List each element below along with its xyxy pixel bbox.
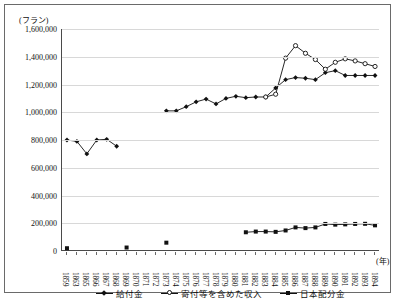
data-point (224, 96, 229, 101)
x-axis-tick-labels: 1859186318651866186718681869187018711872… (61, 252, 379, 286)
data-point (313, 57, 317, 61)
series-line (266, 46, 375, 97)
data-point (264, 230, 268, 234)
gridline (62, 140, 379, 141)
x-tick (126, 252, 127, 255)
x-tick-label: 1893 (360, 272, 369, 286)
legend-marker-icon (280, 293, 297, 294)
x-tick-label: 1877 (201, 272, 210, 286)
x-tick-label: 1859 (61, 272, 70, 286)
data-point (253, 95, 258, 100)
x-tick (285, 252, 286, 255)
series-line (67, 139, 117, 154)
y-tick-label: 0 (5, 247, 57, 256)
gridline (62, 112, 379, 113)
x-tick-label: 1871 (141, 272, 150, 286)
x-tick-label: 1866 (91, 272, 100, 286)
data-point (214, 102, 219, 107)
x-tick (354, 252, 355, 255)
data-point (303, 226, 307, 230)
data-point (363, 73, 368, 78)
x-tick (364, 252, 365, 255)
data-point (363, 62, 367, 66)
x-tick (106, 252, 107, 255)
x-tick-label: 1884 (270, 272, 279, 286)
y-tick-label: 1,200,000 (5, 80, 57, 89)
x-tick-label: 1870 (131, 272, 140, 286)
data-point (293, 75, 298, 80)
x-tick-label: 1889 (320, 272, 329, 286)
y-tick-label: 200,000 (5, 219, 57, 228)
x-tick (175, 252, 176, 255)
x-tick (225, 252, 226, 255)
x-tick (215, 252, 216, 255)
x-tick-label: 1887 (300, 272, 309, 286)
data-point (274, 230, 278, 234)
data-point (353, 73, 358, 78)
x-tick (245, 252, 246, 255)
data-point (274, 92, 278, 96)
x-tick-label: 1865 (81, 272, 90, 286)
x-tick (324, 252, 325, 255)
data-point (264, 95, 268, 99)
x-tick (76, 252, 77, 255)
legend-item: 給付金 (96, 287, 143, 299)
x-tick (344, 252, 345, 255)
x-tick (116, 252, 117, 255)
legend-label: 寄付等を含めた収入 (181, 287, 262, 299)
x-tick (255, 252, 256, 255)
data-point (313, 225, 317, 229)
x-tick (334, 252, 335, 255)
x-tick-label: 1876 (191, 272, 200, 286)
x-tick-label: 1863 (71, 272, 80, 286)
x-tick (374, 252, 375, 255)
data-point (373, 73, 378, 78)
legend-marker-icon (161, 293, 178, 294)
y-axis-unit-label: (フラン) (19, 14, 48, 25)
x-tick (275, 252, 276, 255)
gridline (62, 85, 379, 86)
y-tick-label: 600,000 (5, 163, 57, 172)
data-point (184, 104, 189, 109)
x-tick-label: 1873 (161, 272, 170, 286)
data-point (373, 64, 377, 68)
x-tick (145, 252, 146, 255)
data-point (333, 68, 338, 73)
legend-label: 日本配分金 (300, 287, 345, 299)
x-tick (195, 252, 196, 255)
x-tick (265, 252, 266, 255)
y-tick-label: 1,400,000 (5, 52, 57, 61)
data-point (194, 99, 199, 104)
x-tick (165, 252, 166, 255)
x-tick-label: 1875 (181, 272, 190, 286)
data-point (65, 246, 69, 250)
x-tick-label: 1874 (171, 272, 180, 286)
data-point (333, 60, 337, 64)
data-point (284, 228, 288, 232)
data-point (164, 241, 168, 245)
x-tick-label: 1880 (230, 272, 239, 286)
x-tick (155, 252, 156, 255)
plot-area (61, 29, 379, 251)
x-tick (96, 252, 97, 255)
x-tick-label: 1892 (350, 272, 359, 286)
x-tick (295, 252, 296, 255)
x-tick-label: 1891 (340, 272, 349, 286)
y-axis-tick-labels: 0200,000400,000600,000800,0001,000,0001,… (5, 29, 57, 251)
legend-label: 給付金 (116, 287, 143, 299)
data-point (323, 67, 327, 71)
y-tick-label: 800,000 (5, 136, 57, 145)
x-tick-label: 1869 (121, 272, 130, 286)
y-tick-label: 400,000 (5, 191, 57, 200)
data-point (254, 230, 258, 234)
x-tick-label: 1881 (240, 272, 249, 286)
x-tick (66, 252, 67, 255)
data-point (243, 95, 248, 100)
x-tick-label: 1867 (101, 272, 110, 286)
chart-frame: (フラン) (年) 0200,000400,000600,000800,0001… (4, 4, 391, 293)
x-tick-label: 1879 (220, 272, 229, 286)
gridline (62, 196, 379, 197)
data-point (125, 246, 129, 250)
x-tick (185, 252, 186, 255)
data-point (303, 76, 308, 81)
